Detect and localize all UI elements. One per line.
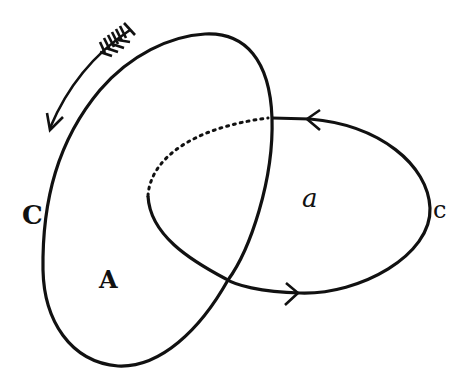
label-inner-region: a	[302, 183, 318, 213]
contour-C	[43, 34, 272, 366]
label-outer-region: A	[99, 265, 118, 294]
label-outer-contour: C	[22, 200, 43, 230]
diagram-canvas	[0, 0, 471, 386]
label-inner-contour: c	[433, 196, 446, 224]
contour-c-visible	[148, 118, 430, 293]
contour-c-hidden	[148, 118, 268, 196]
circulation-arrow-icon	[47, 23, 135, 130]
